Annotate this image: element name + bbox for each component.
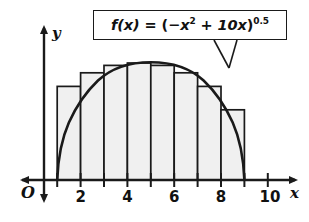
formula-term2: 10x bbox=[218, 17, 247, 33]
riemann-bar bbox=[57, 86, 80, 180]
formula-equals: = bbox=[145, 17, 157, 33]
y-axis bbox=[40, 25, 48, 203]
riemann-bar bbox=[174, 73, 197, 180]
riemann-bar bbox=[198, 86, 221, 180]
formula-minus: − bbox=[168, 17, 180, 33]
x-tick-label-6: 6 bbox=[169, 188, 179, 206]
riemann-sum-figure: f(x) = (−x2 + 10x)0.5 y x O 2 4 6 8 10 bbox=[0, 0, 309, 222]
x-tick-label-2: 2 bbox=[75, 188, 85, 206]
x-tick-label-10: 10 bbox=[260, 188, 281, 206]
formula-outer-exponent: 0.5 bbox=[253, 16, 269, 26]
riemann-bar bbox=[104, 65, 127, 180]
y-axis-label: y bbox=[52, 24, 61, 42]
callout-leader bbox=[214, 40, 237, 68]
riemann-bar bbox=[127, 63, 150, 180]
formula-text: f(x) = (−x2 + 10x)0.5 bbox=[111, 17, 269, 32]
formula-lhs: f(x) bbox=[111, 17, 140, 33]
riemann-bar bbox=[151, 65, 174, 180]
riemann-bar bbox=[81, 73, 104, 180]
formula-callout-box: f(x) = (−x2 + 10x)0.5 bbox=[93, 10, 287, 40]
x-axis-label: x bbox=[290, 184, 299, 202]
x-tick-label-8: 8 bbox=[216, 188, 226, 206]
x-tick-label-4: 4 bbox=[122, 188, 132, 206]
riemann-rectangles bbox=[57, 63, 244, 180]
formula-plus: + bbox=[201, 17, 213, 33]
origin-label: O bbox=[21, 183, 35, 202]
formula-x-exponent: 2 bbox=[189, 16, 195, 26]
